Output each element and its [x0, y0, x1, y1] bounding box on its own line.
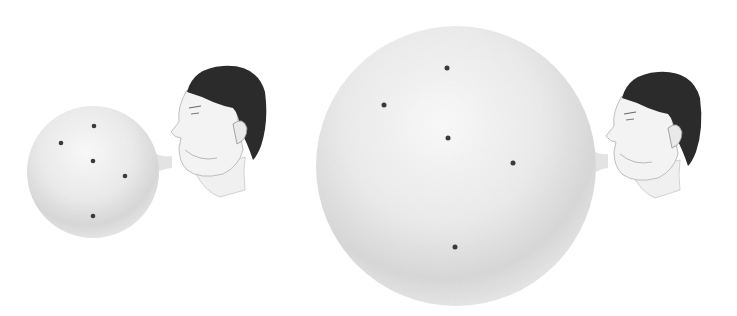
panel-large-balloon: [316, 26, 701, 306]
expanding-balloon-illustration: Two men blowing up balloons with dots pa…: [0, 0, 737, 316]
man-head-right: [606, 72, 701, 198]
illustration-canvas: [0, 0, 737, 316]
man-head-left: [171, 66, 266, 197]
large-balloon: [316, 26, 596, 306]
panel-small-balloon: [27, 66, 266, 238]
